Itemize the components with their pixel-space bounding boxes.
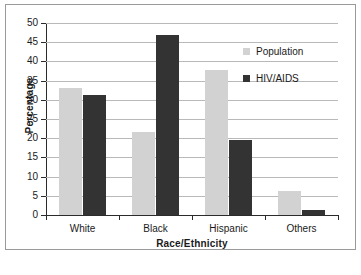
bar-black-population <box>132 132 155 215</box>
x-tick-mark <box>338 215 339 220</box>
y-tick-label: 5 <box>2 191 38 201</box>
y-tick-label-wrap: 15 <box>0 152 38 162</box>
bar-white-hiv-aids <box>83 95 106 215</box>
legend-swatch-icon <box>243 75 250 82</box>
y-tick-label: 50 <box>2 18 38 28</box>
chart-legend: PopulationHIV/AIDS <box>243 44 303 98</box>
y-tick-label: 0 <box>2 210 38 220</box>
bar-hispanic-population <box>205 70 228 215</box>
legend-item-hiv-aids: HIV/AIDS <box>243 71 303 85</box>
x-tick-label-others: Others <box>257 223 347 234</box>
y-tick-label-wrap: 10 <box>0 172 38 182</box>
y-tick-label: 30 <box>2 95 38 105</box>
y-tick-label-wrap: 25 <box>0 114 38 124</box>
y-tick-label-wrap: 40 <box>0 56 38 66</box>
y-tick-label-wrap: 45 <box>0 37 38 47</box>
legend-item-population: Population <box>243 44 303 58</box>
y-tick-label-wrap: 30 <box>0 95 38 105</box>
y-tick-label: 20 <box>2 133 38 143</box>
y-tick-label: 35 <box>2 76 38 86</box>
chart-figure: Percentage 50454035302520151050 WhiteBla… <box>0 0 361 275</box>
y-tick-label-wrap: 5 <box>0 191 38 201</box>
x-axis-title: Race/Ethnicity <box>46 238 338 249</box>
gridline <box>46 23 338 24</box>
bar-black-hiv-aids <box>156 35 179 215</box>
y-tick-label: 40 <box>2 56 38 66</box>
y-tick-label: 25 <box>2 114 38 124</box>
bar-hispanic-hiv-aids <box>229 140 252 215</box>
y-tick-label-wrap: 50 <box>0 18 38 28</box>
legend-label: HIV/AIDS <box>256 73 299 84</box>
legend-label: Population <box>256 46 303 57</box>
x-tick-mark <box>192 215 193 220</box>
bar-white-population <box>59 88 82 215</box>
y-tick-label-wrap: 0 <box>0 210 38 220</box>
y-tick-label: 10 <box>2 172 38 182</box>
bar-others-population <box>278 191 301 215</box>
y-tick-label: 45 <box>2 37 38 47</box>
y-tick-label-wrap: 20 <box>0 133 38 143</box>
x-tick-mark <box>46 215 47 220</box>
y-tick-label-wrap: 35 <box>0 76 38 86</box>
legend-swatch-icon <box>243 48 250 55</box>
y-tick-label: 15 <box>2 152 38 162</box>
x-tick-mark <box>265 215 266 220</box>
x-tick-mark <box>119 215 120 220</box>
